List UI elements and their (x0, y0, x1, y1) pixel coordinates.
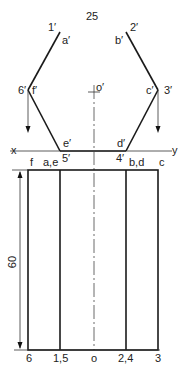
label-dp: d′ (117, 137, 125, 149)
dim-arrow-down-icon (18, 342, 23, 349)
edge-3-2 (126, 32, 158, 90)
edge-1-6 (28, 32, 60, 90)
dim-arrow-up-icon (18, 171, 23, 178)
arrow-right-icon (156, 126, 161, 133)
label-bottom-3: 3 (155, 352, 161, 364)
arrow-left-icon (26, 126, 31, 133)
label-bd: b,d (129, 156, 144, 168)
label-bottom-o: o (91, 352, 97, 364)
label-ep: e′ (63, 137, 71, 149)
label-3p: 3′ (164, 84, 172, 96)
edge-6-5 (28, 90, 60, 151)
label-f: f (30, 156, 34, 168)
dimension-60: 60 (6, 256, 18, 268)
label-6p: 6′ (18, 84, 26, 96)
label-x: x (11, 144, 17, 156)
label-bottom-2-4: 2,4 (118, 352, 133, 364)
dimension-25: 25 (86, 10, 98, 22)
label-fp: f′ (32, 84, 37, 96)
label-4p: 4′ (116, 152, 124, 164)
label-bottom-6: 6 (26, 352, 32, 364)
label-2p: 2′ (130, 21, 138, 33)
label-y: y (172, 144, 178, 156)
label-cp: c′ (146, 84, 154, 96)
label-ae: a,e (43, 156, 58, 168)
label-ap: a′ (62, 34, 70, 46)
label-op: o′ (96, 81, 104, 93)
label-bottom-1-5: 1,5 (53, 352, 68, 364)
edge-4-3 (126, 90, 158, 151)
label-c: c (159, 156, 165, 168)
top-view-rectangle (28, 170, 158, 350)
label-bp: b′ (115, 34, 123, 46)
projection-drawing: 60 25 1′ a′ 2′ b′ 6′ f′ c′ 3′ o′ e′ 5′ d… (0, 0, 184, 374)
label-1p: 1′ (48, 21, 56, 33)
label-5p: 5′ (62, 152, 70, 164)
